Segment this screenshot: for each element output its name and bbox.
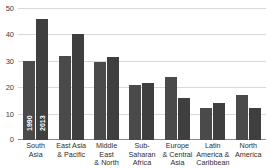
bar-group <box>231 8 266 140</box>
bar-group <box>124 8 159 140</box>
x-axis-label: East Asia& Pacific <box>53 142 88 168</box>
x-axis-label-line: America <box>232 151 265 160</box>
ytick-label-20: 20 <box>0 84 14 92</box>
x-axis-label-line: & Pacific <box>54 151 87 160</box>
bar-groups: 19902013 <box>18 8 266 140</box>
x-axis-label: LatinAmerica &Caribbean <box>195 142 230 168</box>
x-axis-label: SouthAsia <box>18 142 53 168</box>
bar[interactable] <box>142 83 154 140</box>
x-axis-label-line: Asia <box>19 151 52 160</box>
bar[interactable] <box>107 57 119 140</box>
bar[interactable] <box>94 62 106 140</box>
x-axis-label: NorthAmerica <box>231 142 266 168</box>
bar[interactable] <box>200 108 212 140</box>
x-axis-label-line: Africa <box>125 159 158 168</box>
ytick-label-10: 10 <box>0 111 14 119</box>
ytick-label-50: 50 <box>0 5 14 13</box>
x-axis-label-line: Middle East <box>90 142 123 159</box>
bar[interactable]: 1990 <box>23 61 35 140</box>
series-label-1990: 1990 <box>26 115 33 131</box>
ytick-label-30: 30 <box>0 58 14 66</box>
bar[interactable]: 2013 <box>36 19 48 140</box>
bar[interactable] <box>236 95 248 140</box>
x-axis-label-line: Asia <box>161 159 194 168</box>
bar-group: 19902013 <box>18 8 53 140</box>
bar[interactable] <box>59 56 71 140</box>
x-axis-label: Sub-SaharanAfrica <box>124 142 159 168</box>
bar[interactable] <box>213 103 225 140</box>
ytick-label-40: 40 <box>0 31 14 39</box>
x-axis-label: Europe& CentralAsia <box>160 142 195 168</box>
bar[interactable] <box>165 77 177 140</box>
series-label-2013: 2013 <box>39 115 46 131</box>
x-axis-label: Middle East& NorthAfrica <box>89 142 124 168</box>
bar[interactable] <box>72 34 84 140</box>
ytick-label-0: 0 <box>0 136 14 144</box>
bar-group <box>160 8 195 140</box>
plot-area: 50 40 30 20 10 0 19902013 <box>18 8 266 140</box>
bar[interactable] <box>129 85 141 140</box>
bar[interactable] <box>249 108 261 140</box>
bar[interactable] <box>178 98 190 140</box>
bar-chart: 50 40 30 20 10 0 19902013 SouthAsiaEast … <box>0 0 270 168</box>
x-axis-label-line: Caribbean <box>196 159 229 168</box>
bar-group <box>195 8 230 140</box>
bar-group <box>53 8 88 140</box>
x-axis-labels: SouthAsiaEast Asia& PacificMiddle East& … <box>18 142 266 168</box>
bar-group <box>89 8 124 140</box>
x-axis-label-line: Sub-Saharan <box>125 142 158 159</box>
